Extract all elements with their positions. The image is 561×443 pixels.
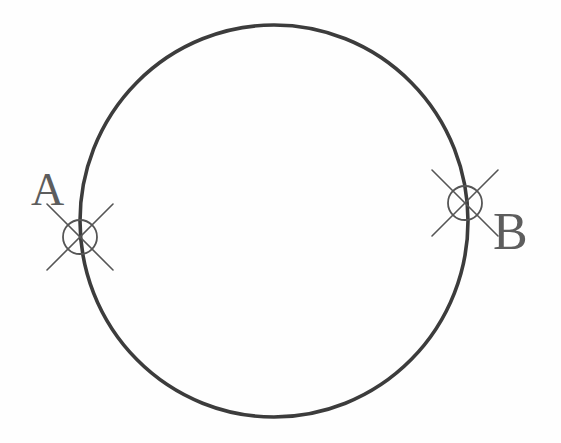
diagram-canvas: A B xyxy=(0,0,561,443)
main-circle xyxy=(80,25,468,417)
main-circle-group xyxy=(80,25,468,417)
point-label-b: B xyxy=(493,206,528,258)
circle-diagram xyxy=(0,0,561,443)
point-label-a: A xyxy=(31,167,64,213)
